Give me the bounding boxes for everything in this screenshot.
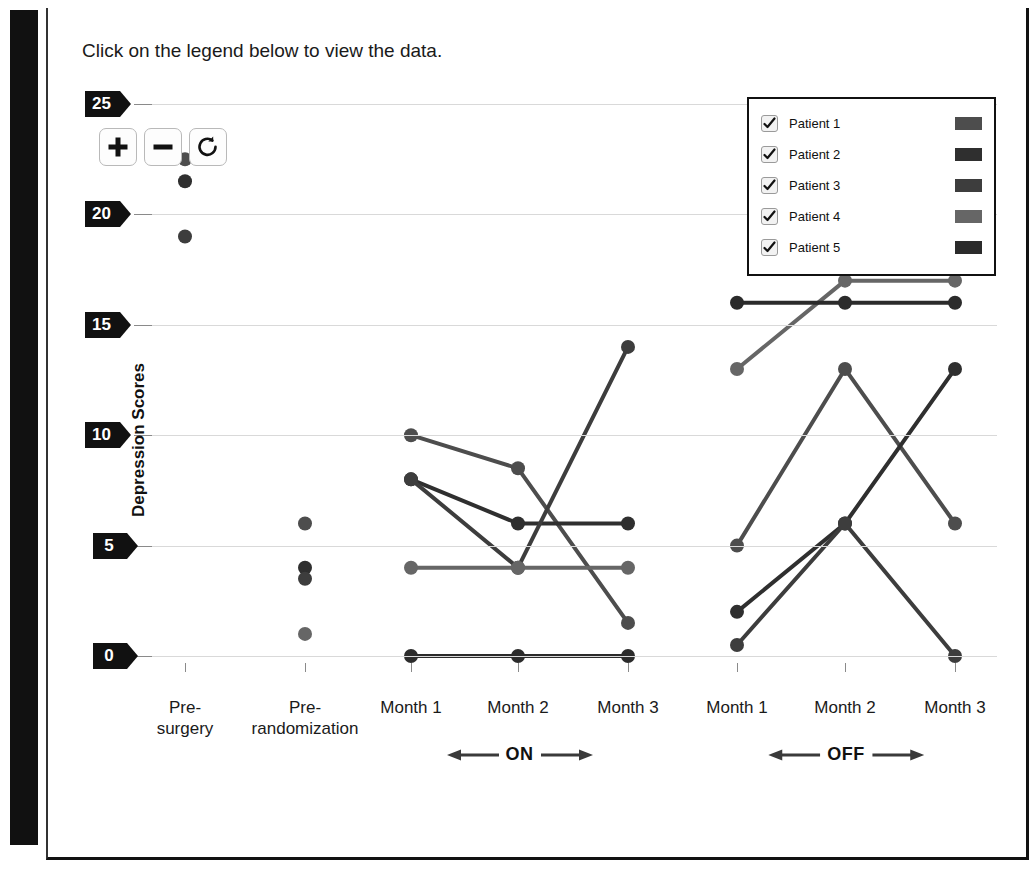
checkmark-icon [763,148,776,161]
legend-color-swatch [955,117,982,130]
checkmark-icon [763,117,776,130]
interactive-side-tab: Interactive [10,10,38,845]
zoom-controls[interactable] [99,128,227,166]
checkmark-icon [763,210,776,223]
legend-checkbox[interactable] [761,146,778,163]
zoom-out-button[interactable] [144,128,182,166]
legend-item-1[interactable]: Patient 1 [761,108,982,139]
screenshot-root: Interactive Click on the legend below to… [0,0,1034,871]
legend-color-swatch [955,241,982,254]
y-axis-title: Depression Scores [129,363,149,517]
legend-item-label: Patient 3 [789,178,955,193]
side-tab-rotated-group: Interactive [10,0,38,10]
legend-color-swatch [955,179,982,192]
legend-checkbox[interactable] [761,239,778,256]
legend-item-5[interactable]: Patient 5 [761,232,982,263]
legend-color-swatch [955,210,982,223]
checkmark-icon [763,241,776,254]
checkmark-icon [763,179,776,192]
panel-right-border [1026,8,1029,860]
legend-item-4[interactable]: Patient 4 [761,201,982,232]
legend-checkbox[interactable] [761,208,778,225]
instruction-caption: Click on the legend below to view the da… [82,40,442,62]
reset-arrow-icon [196,135,220,159]
side-tab-label: Interactive [14,0,32,2]
plus-icon [107,136,129,158]
legend-item-label: Patient 4 [789,209,955,224]
zoom-in-button[interactable] [99,128,137,166]
legend-panel[interactable]: Patient 1Patient 2Patient 3Patient 4Pati… [747,97,996,276]
minus-icon [152,136,174,158]
legend-item-2[interactable]: Patient 2 [761,139,982,170]
legend-item-label: Patient 5 [789,240,955,255]
reset-button[interactable] [189,128,227,166]
legend-checkbox[interactable] [761,177,778,194]
legend-item-label: Patient 2 [789,147,955,162]
legend-checkbox[interactable] [761,115,778,132]
legend-item-3[interactable]: Patient 3 [761,170,982,201]
legend-color-swatch [955,148,982,161]
legend-item-label: Patient 1 [789,116,955,131]
